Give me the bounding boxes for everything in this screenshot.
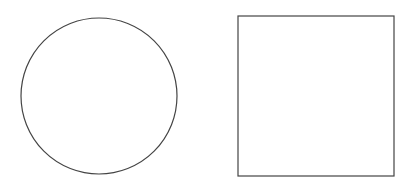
square-shape bbox=[238, 16, 394, 176]
diagram-canvas bbox=[0, 0, 413, 191]
shapes-diagram bbox=[0, 0, 413, 191]
circle-shape bbox=[21, 18, 177, 174]
